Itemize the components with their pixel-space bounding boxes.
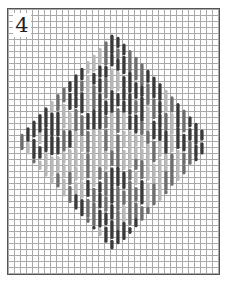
diamond-stitch-pattern [0,0,225,285]
figure-number: 4 [13,13,31,37]
